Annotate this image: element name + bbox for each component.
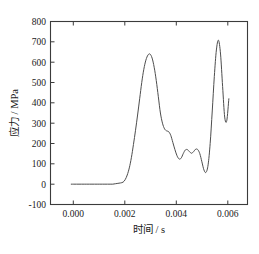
x-axis-title: 时间 / s [133,223,165,235]
x-tick-label: 0.002 [114,209,136,219]
y-tick-label: 700 [32,37,47,47]
plot-frame [51,22,248,205]
y-tick-marks [51,22,55,205]
y-tick-label: 200 [32,139,47,149]
y-tick-labels: 800 700 600 500 400 300 200 100 0 -100 [29,17,47,210]
figure-container: 800 700 600 500 400 300 200 100 0 -100 0… [0,0,259,254]
stress-time-chart: 800 700 600 500 400 300 200 100 0 -100 0… [0,0,259,254]
y-tick-label: 600 [32,58,47,68]
stress-curve [71,40,229,184]
y-tick-label: -100 [29,200,47,210]
y-axis-title: 应力 / MPa [8,89,20,137]
y-tick-label: 300 [32,119,47,129]
x-tick-marks [73,22,228,205]
y-tick-label: 0 [41,180,46,190]
y-tick-label: 400 [32,98,47,108]
x-tick-label: 0.000 [63,209,85,219]
x-tick-label: 0.004 [166,209,188,219]
x-tick-labels: 0.000 0.002 0.004 0.006 [63,209,239,219]
x-tick-label: 0.006 [217,209,239,219]
y-tick-label: 800 [32,17,47,27]
y-tick-label: 500 [32,78,47,88]
y-tick-label: 100 [32,159,47,169]
